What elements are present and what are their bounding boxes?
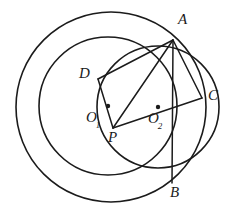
vertex-label-O2-subscript: 2	[158, 121, 163, 131]
vertex-label-O1-subscript: 1	[96, 120, 101, 130]
geometry-canvas	[0, 0, 244, 217]
segment-P-A	[113, 40, 173, 128]
center-point-O1	[106, 104, 110, 108]
center-point-O2	[156, 105, 160, 109]
geometry-figure: A B C D P O1 O2	[0, 0, 244, 217]
vertex-label-C: C	[208, 88, 218, 103]
vertex-label-P: P	[108, 130, 117, 145]
vertex-label-B: B	[170, 185, 179, 200]
segment-A-B	[172, 40, 173, 183]
vertex-label-O2: O2	[148, 111, 163, 129]
segment-A-D	[98, 40, 173, 79]
vertex-label-D: D	[79, 66, 90, 81]
vertex-label-O1: O1	[86, 110, 101, 128]
vertex-label-A: A	[178, 12, 187, 27]
